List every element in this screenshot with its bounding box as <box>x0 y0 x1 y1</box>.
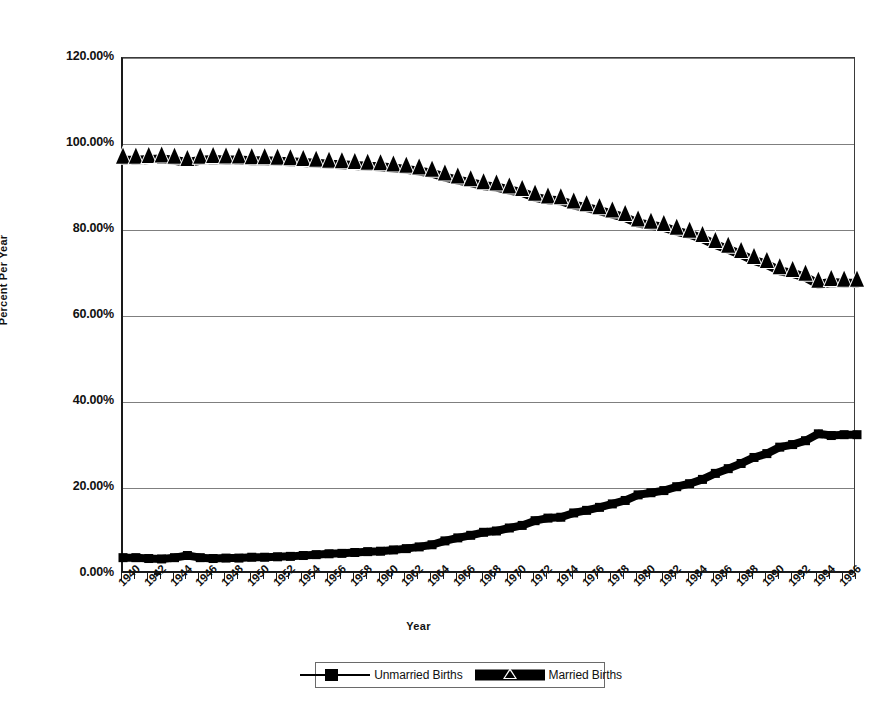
data-point-marker <box>234 554 243 563</box>
data-point-marker <box>170 553 179 562</box>
data-point-marker <box>518 521 527 530</box>
data-point-marker <box>659 486 668 495</box>
data-point-marker <box>749 453 758 462</box>
data-point-marker <box>337 549 346 558</box>
data-point-marker <box>453 533 462 542</box>
data-point-marker <box>531 516 540 525</box>
data-point-marker <box>402 544 411 553</box>
data-point-marker <box>634 490 643 499</box>
data-point-marker <box>350 548 359 557</box>
data-point-marker <box>222 554 231 563</box>
data-point-marker <box>505 523 514 532</box>
data-point-marker <box>299 551 308 560</box>
data-point-marker <box>206 147 220 163</box>
square-marker-icon <box>298 668 372 682</box>
data-point-marker <box>556 513 565 522</box>
data-point-marker <box>608 499 617 508</box>
data-point-marker <box>543 514 552 523</box>
data-point-marker <box>131 553 140 562</box>
y-axis-ticks: 0.00%20.00%40.00%60.00%80.00%100.00%120.… <box>40 57 114 573</box>
data-point-marker <box>428 540 437 549</box>
data-point-marker <box>119 553 128 562</box>
data-point-marker <box>762 449 771 458</box>
data-point-marker <box>273 552 282 561</box>
data-point-marker <box>492 527 501 536</box>
data-point-marker <box>183 551 192 560</box>
data-point-marker <box>621 496 630 505</box>
data-point-marker <box>312 550 321 559</box>
legend-item-unmarried-births[interactable]: Unmarried Births <box>298 668 462 682</box>
data-point-marker <box>286 552 295 561</box>
data-point-marker <box>775 443 784 452</box>
y-tick-label: 0.00% <box>80 565 114 579</box>
data-point-marker <box>247 553 256 562</box>
data-point-marker <box>827 431 836 440</box>
y-tick-label: 120.00% <box>66 49 114 63</box>
data-point-marker <box>672 482 681 491</box>
y-tick-label: 20.00% <box>73 479 114 493</box>
data-point-marker <box>724 464 733 473</box>
data-point-marker <box>840 430 849 439</box>
data-point-marker <box>646 488 655 497</box>
legend-label-married-births: Married Births <box>549 668 622 682</box>
data-point-marker <box>569 508 578 517</box>
data-point-marker <box>737 459 746 468</box>
data-point-marker <box>376 547 385 556</box>
data-point-marker <box>824 270 838 286</box>
x-axis-title: Year <box>0 620 891 632</box>
y-tick-label: 80.00% <box>73 221 114 235</box>
data-point-marker <box>788 440 797 449</box>
y-axis-title: Percent Per Year <box>0 215 9 345</box>
data-point-marker <box>853 430 862 439</box>
data-point-marker <box>260 553 269 562</box>
data-point-marker <box>415 542 424 551</box>
plot-area <box>121 57 855 573</box>
chart-legend: Unmarried Births Married Births <box>315 662 605 688</box>
y-tick-label: 60.00% <box>73 307 114 321</box>
series-unmarried-births <box>119 429 862 563</box>
data-point-marker <box>685 479 694 488</box>
x-tick-label: 1940 <box>116 562 142 588</box>
data-point-marker <box>196 553 205 562</box>
series-line <box>123 434 857 559</box>
series-married-births <box>115 144 866 289</box>
data-point-marker <box>258 148 272 164</box>
data-point-marker <box>582 506 591 515</box>
data-point-marker <box>698 475 707 484</box>
data-point-marker <box>325 549 334 558</box>
data-point-marker <box>595 503 604 512</box>
data-point-marker <box>466 531 475 540</box>
data-point-marker <box>801 436 810 445</box>
data-point-marker <box>479 528 488 537</box>
triangle-marker-icon <box>473 668 547 682</box>
data-point-marker <box>814 429 823 438</box>
data-point-marker <box>711 469 720 478</box>
x-axis-title-text: Year <box>406 620 430 632</box>
series-layer <box>123 58 857 574</box>
data-point-marker <box>389 545 398 554</box>
data-point-marker <box>363 547 372 556</box>
legend-label-unmarried-births: Unmarried Births <box>374 668 462 682</box>
chart-container: Percent Per Year 0.00%20.00%40.00%60.00%… <box>0 0 891 728</box>
y-tick-label: 100.00% <box>66 135 114 149</box>
data-point-marker <box>440 536 449 545</box>
legend-item-married-births[interactable]: Married Births <box>473 668 622 682</box>
series-line <box>123 159 857 284</box>
y-tick-label: 40.00% <box>73 393 114 407</box>
data-point-marker <box>144 554 153 563</box>
data-point-marker <box>155 147 169 163</box>
